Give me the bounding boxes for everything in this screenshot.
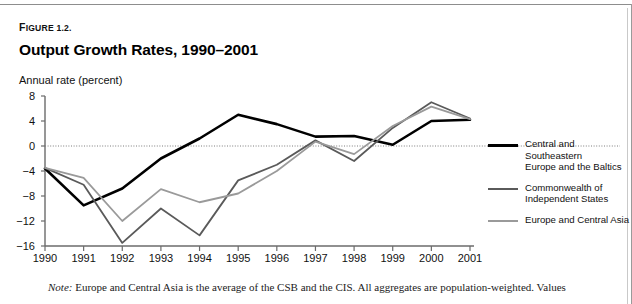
legend-swatch-cis bbox=[488, 188, 518, 190]
legend-label-cis-line2: Independent States bbox=[525, 193, 608, 204]
legend-label-csb: Central and Southeastern Europe and the … bbox=[525, 138, 630, 173]
legend-item-eca: Europe and Central Asia bbox=[488, 214, 630, 226]
series-line-eca bbox=[45, 107, 470, 221]
legend-label-csb-line1: Central and Southeastern bbox=[525, 138, 582, 161]
legend-swatch-csb bbox=[488, 144, 518, 147]
legend-label-eca: Europe and Central Asia bbox=[525, 214, 629, 226]
legend-label-csb-line2: Europe and the Baltics bbox=[525, 161, 622, 172]
figure-note: Note: Europe and Central Asia is the ave… bbox=[48, 280, 614, 294]
legend-item-cis: Commonwealth of Independent States bbox=[488, 182, 630, 205]
legend-label-cis: Commonwealth of Independent States bbox=[525, 182, 608, 205]
legend-swatch-eca bbox=[488, 220, 518, 222]
series-line-csb bbox=[45, 115, 470, 206]
legend-label-eca-line1: Europe and Central Asia bbox=[525, 214, 629, 225]
legend-label-cis-line1: Commonwealth of bbox=[525, 182, 602, 193]
chart-legend: Central and Southeastern Europe and the … bbox=[488, 138, 630, 234]
figure-note-label: Note: bbox=[48, 281, 72, 293]
legend-item-csb: Central and Southeastern Europe and the … bbox=[488, 138, 630, 173]
series-line-cis bbox=[45, 102, 470, 243]
figure-note-text: Europe and Central Asia is the average o… bbox=[72, 281, 565, 293]
